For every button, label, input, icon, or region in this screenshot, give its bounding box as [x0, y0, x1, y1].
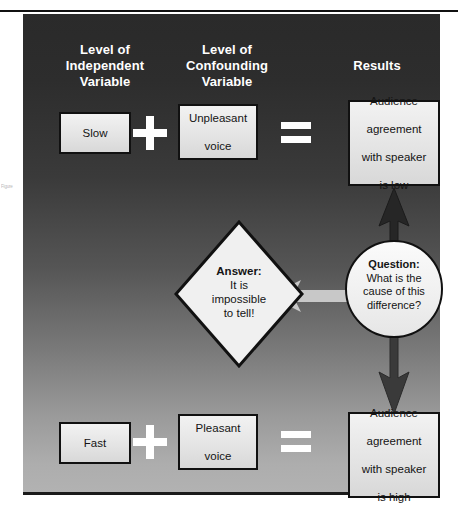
box-confounding-top-line-1: Unpleasant: [182, 111, 254, 125]
answer-line-1: It is: [230, 279, 248, 291]
arrow-up-icon: [363, 186, 425, 248]
heading-cv-line-3: Variable: [163, 74, 291, 90]
answer-line-2: impossible: [212, 293, 266, 305]
box-result-top-line-1: Audience: [352, 94, 436, 108]
box-result-bottom: Audience agreement with speaker is high: [348, 412, 440, 498]
plus-icon-top: [133, 116, 167, 150]
box-result-bottom-line-2: agreement: [352, 434, 436, 448]
box-confounding-bottom-text: Pleasant voice: [182, 421, 254, 463]
equals-icon-top: [281, 122, 311, 144]
equals-icon-bottom: [281, 431, 311, 453]
arrow-down-icon: [363, 332, 425, 416]
heading-cv-line-1: Level of: [163, 42, 291, 58]
answer-diamond: Answer: It is impossible to tell!: [173, 219, 305, 369]
heading-cv-line-2: Confounding: [163, 58, 291, 74]
answer-text: Answer: It is impossible to tell!: [187, 264, 291, 320]
box-confounding-top-line-2: voice: [182, 139, 254, 153]
box-independent-bottom-label: Fast: [63, 436, 127, 450]
heading-iv-line-3: Variable: [45, 74, 165, 90]
box-confounding-bottom-line-2: voice: [182, 449, 254, 463]
box-result-bottom-line-3: with speaker: [352, 462, 436, 476]
box-confounding-top: Unpleasant voice: [178, 104, 258, 160]
answer-line-3: to tell!: [224, 307, 255, 319]
answer-lead: Answer:: [187, 264, 291, 278]
heading-independent-variable: Level of Independent Variable: [45, 42, 165, 90]
question-line-3: difference?: [367, 299, 421, 311]
plus-icon-bottom: [133, 425, 167, 459]
question-line-1: What is the: [366, 272, 421, 284]
heading-iv-line-2: Independent: [45, 58, 165, 74]
figure-canvas: Figure Level of Independent Variable Lev…: [0, 0, 458, 515]
top-divider-rule: [0, 10, 458, 12]
box-result-top-text: Audience agreement with speaker is low: [352, 94, 436, 192]
question-text: Question: What is the cause of this diff…: [349, 258, 439, 312]
heading-results: Results: [323, 58, 431, 74]
heading-confounding-variable: Level of Confounding Variable: [163, 42, 291, 90]
box-independent-top: Slow: [59, 112, 131, 154]
box-confounding-top-text: Unpleasant voice: [182, 111, 254, 153]
margin-caption-fragment: Figure: [1, 183, 14, 188]
heading-iv-line-1: Level of: [45, 42, 165, 58]
box-confounding-bottom-line-1: Pleasant: [182, 421, 254, 435]
question-circle: Question: What is the cause of this diff…: [345, 240, 443, 338]
box-independent-top-label: Slow: [63, 126, 127, 140]
box-confounding-bottom: Pleasant voice: [178, 414, 258, 470]
diagram-panel: Level of Independent Variable Level of C…: [23, 14, 440, 495]
question-lead: Question:: [349, 258, 439, 272]
question-line-2: cause of this: [363, 285, 425, 297]
box-result-top-line-3: with speaker: [352, 150, 436, 164]
box-independent-bottom: Fast: [59, 422, 131, 464]
box-result-bottom-text: Audience agreement with speaker is high: [352, 406, 436, 504]
box-result-bottom-line-1: Audience: [352, 406, 436, 420]
box-result-top: Audience agreement with speaker is low: [348, 100, 440, 186]
box-result-top-line-2: agreement: [352, 122, 436, 136]
box-result-bottom-line-4: is high: [352, 490, 436, 504]
